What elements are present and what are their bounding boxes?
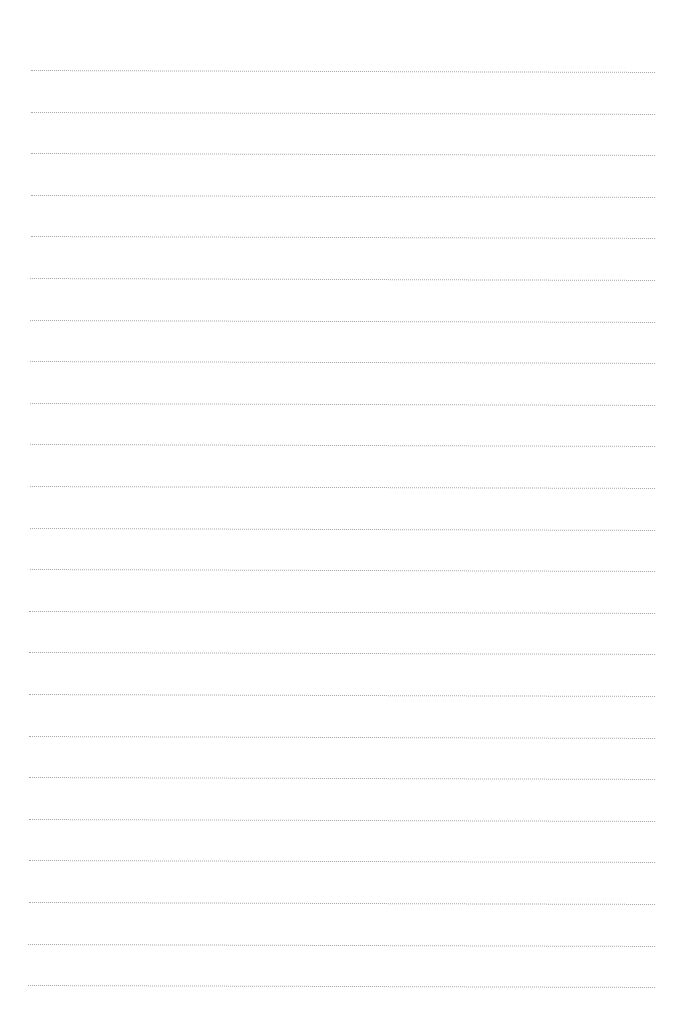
- ruled-line: [31, 70, 655, 73]
- ruled-line: [31, 236, 655, 239]
- ruled-line: [29, 694, 655, 697]
- ruled-line: [28, 985, 655, 988]
- ruled-line: [31, 195, 655, 198]
- ruled-line: [30, 569, 655, 572]
- ruled-line: [31, 153, 655, 156]
- ruled-line: [30, 486, 655, 489]
- ruled-line: [29, 819, 655, 822]
- ruled-line: [28, 944, 655, 947]
- ruled-line: [30, 528, 655, 531]
- ruled-line: [31, 112, 655, 115]
- ruled-line: [29, 611, 655, 614]
- ruled-line: [29, 652, 655, 655]
- ruled-line: [29, 902, 655, 905]
- ruled-line: [29, 736, 655, 739]
- ruled-line: [30, 444, 655, 447]
- lined-paper-page: [0, 0, 684, 1032]
- ruled-line: [30, 361, 655, 364]
- ruled-line: [30, 320, 655, 323]
- ruled-line: [29, 777, 655, 780]
- ruled-line: [30, 403, 655, 406]
- ruled-line: [29, 860, 655, 863]
- ruled-line: [30, 278, 655, 281]
